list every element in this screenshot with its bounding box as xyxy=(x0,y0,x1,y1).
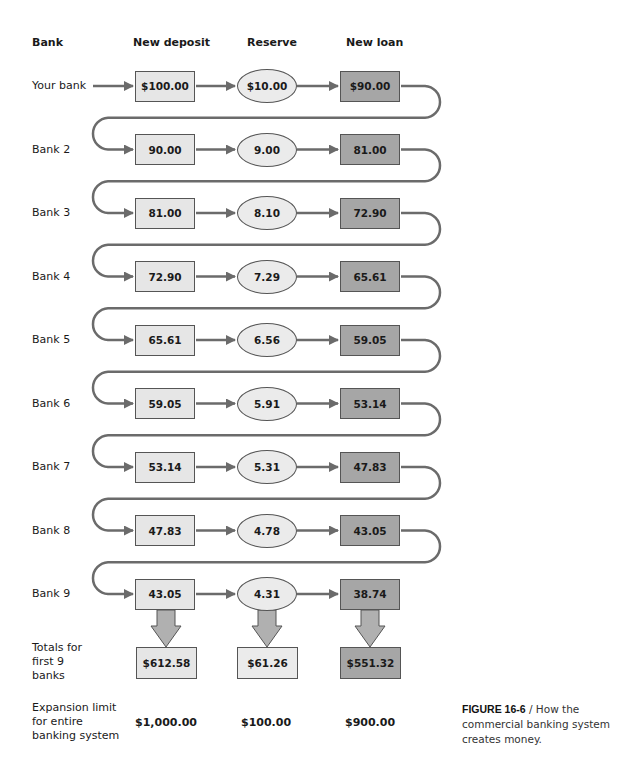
loan-box: 38.74 xyxy=(340,579,400,610)
deposit-box: 90.00 xyxy=(135,134,195,165)
bank-label: Bank 9 xyxy=(32,587,70,601)
reserve-ellipse: 8.10 xyxy=(237,196,297,230)
total-deposit: $612.58 xyxy=(136,647,197,679)
reserve-ellipse: 5.31 xyxy=(237,450,297,484)
limit-label-line: banking system xyxy=(32,729,119,743)
loan-box: $90.00 xyxy=(340,71,400,102)
loan-box: 72.90 xyxy=(340,198,400,229)
limit-deposit: $1,000.00 xyxy=(135,716,197,729)
loan-box: 59.05 xyxy=(340,325,400,356)
deposit-box: 72.90 xyxy=(135,261,195,292)
deposit-box: 59.05 xyxy=(135,388,195,419)
bank-label: Bank 5 xyxy=(32,333,70,347)
caption-separator: / xyxy=(526,703,536,715)
bank-label: Bank 4 xyxy=(32,270,70,284)
reserve-ellipse: 7.29 xyxy=(237,260,297,294)
loan-box: 43.05 xyxy=(340,515,400,546)
totals-label-line: Totals for xyxy=(32,641,82,655)
limit-reserve: $100.00 xyxy=(241,716,291,729)
limit-label: Expansion limit for entire banking syste… xyxy=(32,701,119,743)
deposit-box: 53.14 xyxy=(135,452,195,483)
loan-box: 81.00 xyxy=(340,134,400,165)
bank-label: Bank 3 xyxy=(32,206,70,220)
flow-arrows xyxy=(0,0,637,769)
deposit-box: $100.00 xyxy=(135,71,195,102)
total-reserve: $61.26 xyxy=(237,647,298,679)
figure-caption: FIGURE 16-6 / How the commercial banking… xyxy=(462,702,632,747)
bank-label: Your bank xyxy=(32,79,86,93)
reserve-ellipse: 9.00 xyxy=(237,133,297,167)
figure-number: FIGURE 16-6 xyxy=(462,703,526,715)
limit-label-line: for entire xyxy=(32,715,119,729)
reserve-ellipse: 4.31 xyxy=(237,577,297,611)
deposit-box: 81.00 xyxy=(135,198,195,229)
totals-label-line: first 9 xyxy=(32,655,82,669)
limit-loan: $900.00 xyxy=(345,716,395,729)
reserve-ellipse: 5.91 xyxy=(237,387,297,421)
bank-label: Bank 8 xyxy=(32,524,70,538)
limit-label-line: Expansion limit xyxy=(32,701,119,715)
total-loan: $551.32 xyxy=(340,647,401,679)
loan-box: 47.83 xyxy=(340,452,400,483)
deposit-box: 65.61 xyxy=(135,325,195,356)
totals-label: Totals for first 9 banks xyxy=(32,641,82,683)
deposit-box: 47.83 xyxy=(135,515,195,546)
totals-label-line: banks xyxy=(32,669,82,683)
bank-label: Bank 2 xyxy=(32,143,70,157)
loan-box: 65.61 xyxy=(340,261,400,292)
reserve-ellipse: 6.56 xyxy=(237,323,297,357)
deposit-box: 43.05 xyxy=(135,579,195,610)
loan-box: 53.14 xyxy=(340,388,400,419)
bank-label: Bank 7 xyxy=(32,460,70,474)
reserve-ellipse: 4.78 xyxy=(237,514,297,548)
bank-label: Bank 6 xyxy=(32,397,70,411)
reserve-ellipse: $10.00 xyxy=(237,69,297,103)
